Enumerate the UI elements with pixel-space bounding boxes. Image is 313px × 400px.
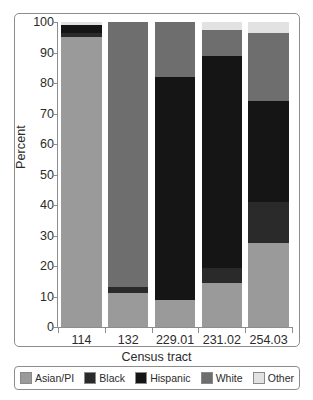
legend-swatch-icon [201,372,213,384]
bar-segment[interactable] [248,243,288,327]
bar-segment[interactable] [108,22,148,287]
bar-segment[interactable] [202,56,242,268]
legend-label: Black [99,372,125,384]
y-axis-tick-labels: 0102030405060708090100 [20,13,54,333]
y-axis-tick-mark [52,175,57,176]
legend-label: Other [268,372,294,384]
x-axis-tick-mark [292,328,293,333]
y-axis-tick-label: 50 [20,168,54,182]
y-axis-tick-label: 70 [20,107,54,121]
bar-column[interactable] [108,22,148,327]
bar-segment[interactable] [108,287,148,293]
bar-segment[interactable] [155,300,195,327]
y-axis-tick-mark [52,205,57,206]
x-axis-spine [57,327,293,328]
bar-column[interactable] [202,22,242,327]
y-axis-tick-mark [52,53,57,54]
legend-label: Hispanic [150,372,190,384]
bar-segment[interactable] [202,268,242,283]
y-axis-tick-mark [52,236,57,237]
legend-swatch-icon [84,372,96,384]
y-axis-tick-label: 80 [20,76,54,90]
y-axis-tick-mark [52,327,57,328]
bar-column[interactable] [155,22,195,327]
bar-segment[interactable] [248,22,288,33]
bar-column[interactable] [61,22,101,327]
bar-segment[interactable] [61,22,101,25]
y-axis-tick-label: 30 [20,229,54,243]
x-axis-title: Census tract [0,350,313,364]
x-axis-tick-label: 114 [71,333,91,347]
y-axis-tick-label: 60 [20,137,54,151]
y-axis-tick-mark [52,22,57,23]
x-axis-tick-mark [105,328,106,333]
bar-segment[interactable] [248,101,288,202]
legend-entry[interactable]: Hispanic [135,372,190,384]
chart-legend: Asian/PIBlackHispanicWhiteOther [14,366,300,390]
y-axis-tick-mark [52,114,57,115]
x-axis-tick-label: 254.03 [249,333,287,347]
bar-segment[interactable] [108,293,148,327]
plot-area [58,22,292,327]
x-axis-tick-label: 132 [118,333,139,347]
legend-entry[interactable]: Asian/PI [20,372,74,384]
legend-label: Asian/PI [35,372,74,384]
bar-segment[interactable] [155,22,195,77]
y-axis-tick-label: 0 [20,320,54,334]
legend-entry[interactable]: Black [84,372,125,384]
legend-entry[interactable]: White [201,372,243,384]
chart-figure: Percent 0102030405060708090100 Census tr… [0,0,313,400]
x-axis-tick-mark [58,328,59,333]
bar-segment[interactable] [202,22,242,30]
x-axis-tick-mark [245,328,246,333]
bar-segment[interactable] [202,283,242,327]
bar-segment[interactable] [248,202,288,243]
x-axis-tick-label: 229.01 [156,333,194,347]
y-axis-tick-label: 10 [20,290,54,304]
legend-label: White [216,372,243,384]
legend-swatch-icon [20,372,32,384]
y-axis-tick-label: 40 [20,198,54,212]
bar-segment[interactable] [61,37,101,327]
bar-segment[interactable] [61,25,101,33]
y-axis-tick-label: 100 [20,15,54,29]
bar-segment[interactable] [61,33,101,38]
y-axis-tick-label: 20 [20,259,54,273]
legend-swatch-icon [253,372,265,384]
bar-segment[interactable] [155,77,195,300]
x-axis-tick-mark [152,328,153,333]
y-axis-tick-mark [52,144,57,145]
y-axis-tick-label: 90 [20,46,54,60]
y-axis-tick-mark [52,297,57,298]
x-axis-tick-mark [198,328,199,333]
legend-swatch-icon [135,372,147,384]
bar-column[interactable] [248,22,288,327]
bar-segment[interactable] [248,33,288,102]
y-axis-tick-mark [52,266,57,267]
bar-segment[interactable] [202,30,242,56]
x-axis-tick-label: 231.02 [203,333,241,347]
y-axis-tick-mark [52,83,57,84]
legend-entry[interactable]: Other [253,372,294,384]
